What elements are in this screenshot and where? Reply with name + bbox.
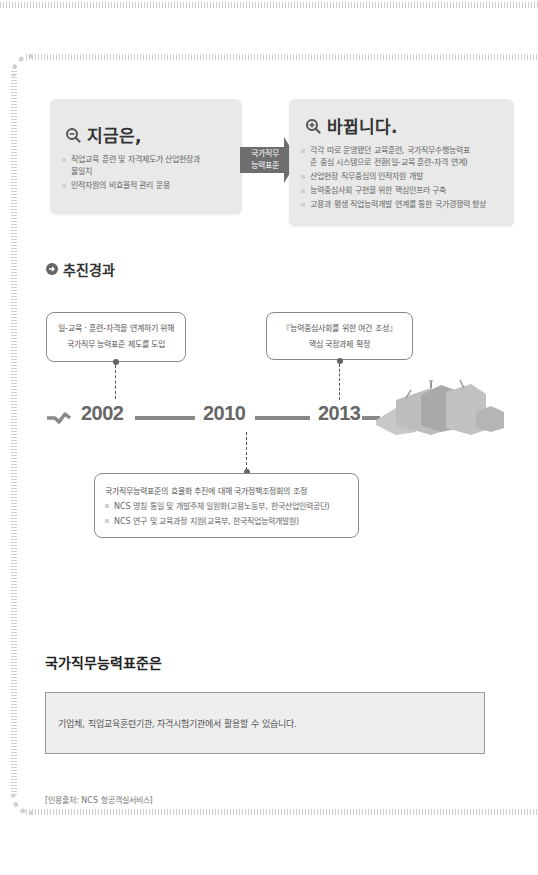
frame-bottom-border	[26, 809, 538, 815]
arrow-circle-icon	[46, 263, 58, 275]
city-illustration-icon	[376, 380, 506, 435]
zoom-in-icon	[305, 118, 321, 134]
ncs-heading: 국가직무능력표준은	[45, 652, 162, 672]
section-title-progress: 추진경과	[46, 259, 115, 279]
now-bullet-1: 직업교육 훈련 및 자격제도가 산업현장과	[62, 154, 200, 166]
frame-top-border	[26, 54, 538, 60]
panel-now: 지금은, 직업교육 훈련 및 자격제도가 산업현장과 불일치 인적자원의 비효율…	[50, 99, 242, 214]
wave-icon	[47, 410, 77, 424]
top-hatch-border	[0, 2, 538, 8]
ncs-note-box: 기업체, 직업교육훈련기관, 자격시험기관에서 활용할 수 있습니다.	[45, 692, 485, 754]
frame-left-border	[11, 70, 17, 795]
zoom-out-icon	[65, 127, 81, 143]
change-bullet-1: 각각 따로 운영됐던 교육훈련, 국가직무수행능력표	[301, 145, 470, 157]
timeline-knob-2013	[337, 358, 343, 364]
year-2010: 2010	[203, 402, 246, 425]
panel-change-title: 바뀝니다.	[305, 113, 397, 138]
now-bullet-2: 인적자원의 비효율적 관리 운용	[62, 180, 170, 192]
timeline-segment-1	[135, 416, 195, 420]
timeline-segment-2	[255, 416, 310, 420]
timeline-knob-2002	[113, 359, 119, 365]
change-bullet-4: 고용과 평생 직업능력개발 연계를 통한 국가경쟁력 향상	[301, 199, 486, 211]
timeline-box-2010: 국가직무능력표준의 효율화 추진에 대해 국가정책조정회의 조정 NCS 명칭 …	[94, 473, 359, 538]
timeline-connector-2002	[115, 365, 116, 399]
now-bullet-1-cont: 불일치	[62, 166, 92, 178]
timeline-connector-2013	[339, 364, 340, 400]
panel-change: 바뀝니다. 각각 따로 운영됐던 교육훈련, 국가직무수행능력표 준 중심 시스…	[289, 99, 514, 226]
panel-now-title: 지금은,	[65, 122, 141, 147]
source-citation: [인용출처: NCS 항공객실서비스]	[45, 794, 153, 805]
change-bullet-1-cont: 준 중심 시스템으로 전환(일-교육 훈련-자격 연계)	[301, 157, 468, 169]
change-bullet-2: 산업현장 직무중심의 인적자원 개발	[301, 171, 423, 183]
timeline-box-2013: 『능력중심사회를 위한 여건 조성』 핵심 국정과제 확정	[266, 312, 413, 360]
arrow-label: 국가직무 능력표준	[243, 148, 287, 172]
change-bullet-3: 능력중심사회 구현을 위한 핵심인프라 구축	[301, 185, 446, 197]
ncs-note-text: 기업체, 직업교육훈련기관, 자격시험기관에서 활용할 수 있습니다.	[58, 717, 297, 730]
timeline-box-2002: 일-교육 · 훈련-자격을 연계하기 위해 국가직무 능력표준 제도를 도입	[46, 312, 186, 362]
timeline-connector-2010	[246, 432, 247, 470]
year-2002: 2002	[81, 402, 124, 425]
year-2013: 2013	[318, 402, 361, 425]
